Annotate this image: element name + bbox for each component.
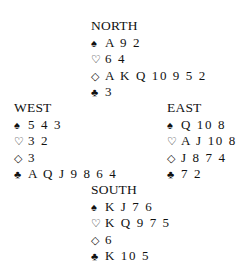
diamond-icon: ◇ bbox=[91, 68, 105, 85]
diamond-icon: ◇ bbox=[91, 232, 105, 249]
suit-row-clubs: ♣ 3 bbox=[91, 84, 207, 101]
diamond-icon: ◇ bbox=[14, 150, 28, 167]
cards-clubs: K 10 5 bbox=[105, 248, 150, 265]
heart-icon: ♡ bbox=[91, 215, 105, 232]
suit-row-diamonds: ◇ 3 bbox=[14, 150, 117, 167]
cards-spades: 5 4 3 bbox=[28, 117, 62, 134]
suit-row-clubs: ♣ K 10 5 bbox=[91, 248, 171, 265]
diamond-icon: ◇ bbox=[167, 150, 181, 167]
hand-label-south: SOUTH bbox=[91, 182, 171, 199]
spade-icon: ♠ bbox=[14, 117, 28, 134]
club-icon: ♣ bbox=[167, 166, 181, 183]
suit-row-spades: ♠ 5 4 3 bbox=[14, 117, 117, 134]
cards-hearts: 6 4 bbox=[105, 51, 126, 68]
suit-row-diamonds: ◇ A K Q 10 9 5 2 bbox=[91, 68, 207, 85]
suit-row-spades: ♠ A 9 2 bbox=[91, 35, 207, 52]
cards-clubs: 7 2 bbox=[181, 166, 202, 183]
cards-clubs: A Q J 9 8 6 4 bbox=[28, 166, 117, 183]
spade-icon: ♠ bbox=[91, 199, 105, 216]
spade-icon: ♠ bbox=[167, 117, 181, 134]
suit-row-clubs: ♣ 7 2 bbox=[167, 166, 237, 183]
cards-spades: Q 10 8 bbox=[181, 117, 226, 134]
suit-row-hearts: ♡ 6 4 bbox=[91, 51, 207, 68]
heart-icon: ♡ bbox=[91, 51, 105, 68]
cards-hearts: 3 2 bbox=[28, 133, 49, 150]
cards-hearts: K Q 9 7 5 bbox=[105, 215, 171, 232]
suit-row-spades: ♠ Q 10 8 bbox=[167, 117, 237, 134]
cards-diamonds: J 8 7 4 bbox=[181, 150, 227, 167]
cards-clubs: 3 bbox=[105, 84, 113, 101]
suit-row-diamonds: ◇ 6 bbox=[91, 232, 171, 249]
spade-icon: ♠ bbox=[91, 35, 105, 52]
hand-north: NORTH ♠ A 9 2 ♡ 6 4 ◇ A K Q 10 9 5 2 ♣ 3 bbox=[91, 18, 207, 101]
cards-diamonds: 6 bbox=[105, 232, 113, 249]
suit-row-hearts: ♡ K Q 9 7 5 bbox=[91, 215, 171, 232]
suit-row-diamonds: ◇ J 8 7 4 bbox=[167, 150, 237, 167]
club-icon: ♣ bbox=[91, 84, 105, 101]
suit-row-hearts: ♡ A J 10 8 bbox=[167, 133, 237, 150]
suit-row-spades: ♠ K J 7 6 bbox=[91, 199, 171, 216]
cards-spades: A 9 2 bbox=[105, 35, 141, 52]
hand-west: WEST ♠ 5 4 3 ♡ 3 2 ◇ 3 ♣ A Q J 9 8 6 4 bbox=[14, 100, 117, 183]
cards-diamonds: 3 bbox=[28, 150, 36, 167]
cards-hearts: A J 10 8 bbox=[181, 133, 237, 150]
hand-label-north: NORTH bbox=[91, 18, 207, 35]
club-icon: ♣ bbox=[91, 248, 105, 265]
heart-icon: ♡ bbox=[14, 133, 28, 150]
club-icon: ♣ bbox=[14, 166, 28, 183]
cards-diamonds: A K Q 10 9 5 2 bbox=[105, 68, 207, 85]
suit-row-hearts: ♡ 3 2 bbox=[14, 133, 117, 150]
heart-icon: ♡ bbox=[167, 133, 181, 150]
hand-east: EAST ♠ Q 10 8 ♡ A J 10 8 ◇ J 8 7 4 ♣ 7 2 bbox=[167, 100, 237, 183]
suit-row-clubs: ♣ A Q J 9 8 6 4 bbox=[14, 166, 117, 183]
hand-south: SOUTH ♠ K J 7 6 ♡ K Q 9 7 5 ◇ 6 ♣ K 10 5 bbox=[91, 182, 171, 265]
cards-spades: K J 7 6 bbox=[105, 199, 153, 216]
hand-label-west: WEST bbox=[14, 100, 117, 117]
hand-label-east: EAST bbox=[167, 100, 237, 117]
